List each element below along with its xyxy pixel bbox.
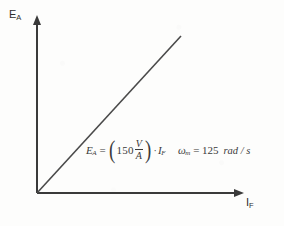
equation-rhs-subscript: F bbox=[161, 149, 165, 157]
y-axis-label-subscript: A bbox=[16, 13, 21, 22]
y-axis-label: EA bbox=[9, 9, 21, 20]
equation-annotation: EA = ( 150 V A ) · IF ωm = 125 rad / s bbox=[86, 139, 250, 161]
equation-coefficient: 150 bbox=[117, 144, 134, 156]
plot-canvas bbox=[0, 0, 284, 226]
equation-lhs-subscript: A bbox=[92, 149, 96, 157]
magnetization-curve-figure: EA IF EA = ( 150 V A ) · IF ωm = 125 rad… bbox=[0, 0, 284, 226]
fraction-denominator: A bbox=[135, 151, 143, 161]
y-axis-arrowhead bbox=[33, 15, 41, 25]
fraction-numerator: V bbox=[135, 139, 143, 149]
multiplication-dot: · bbox=[154, 145, 157, 156]
x-axis-label: IF bbox=[246, 197, 254, 208]
omega-equals-sign: = bbox=[193, 144, 199, 156]
omega-subscript: m bbox=[185, 149, 190, 157]
x-axis-arrowhead bbox=[234, 189, 244, 197]
omega-value: 125 bbox=[202, 144, 219, 156]
characteristic-line bbox=[37, 36, 181, 193]
equation-equals-sign: = bbox=[100, 144, 106, 156]
omega-units: rad / s bbox=[223, 145, 250, 156]
units-fraction: V A bbox=[135, 139, 143, 161]
x-axis-label-subscript: F bbox=[249, 201, 254, 210]
